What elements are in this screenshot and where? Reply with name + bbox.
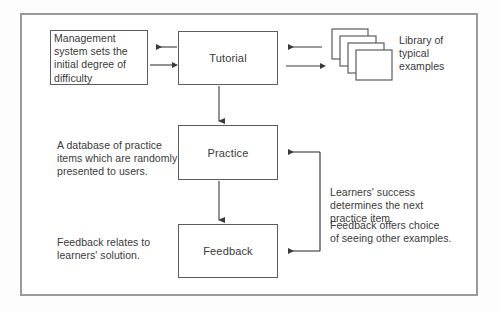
node-feedback[interactable]: Feedback [178, 224, 278, 278]
node-practice-label: Practice [208, 147, 249, 159]
management-system-label: Management system sets the initial degre… [54, 32, 150, 85]
node-tutorial-label: Tutorial [209, 52, 246, 64]
caption-feedback-relates: Feedback relates to learners' solution. [57, 236, 187, 262]
node-tutorial[interactable]: Tutorial [178, 31, 278, 85]
stacked-cards-icon [331, 28, 403, 84]
library-label: Library of typical examples [399, 34, 475, 74]
node-practice[interactable]: Practice [178, 125, 278, 180]
node-feedback-label: Feedback [203, 245, 253, 257]
caption-database-of-practice-items: A database of practice items which are r… [57, 139, 187, 179]
diagram-canvas: Management system sets the initial degre… [0, 0, 501, 311]
caption-feedback-offers: Feedback offers choice of seeing other e… [330, 219, 485, 245]
